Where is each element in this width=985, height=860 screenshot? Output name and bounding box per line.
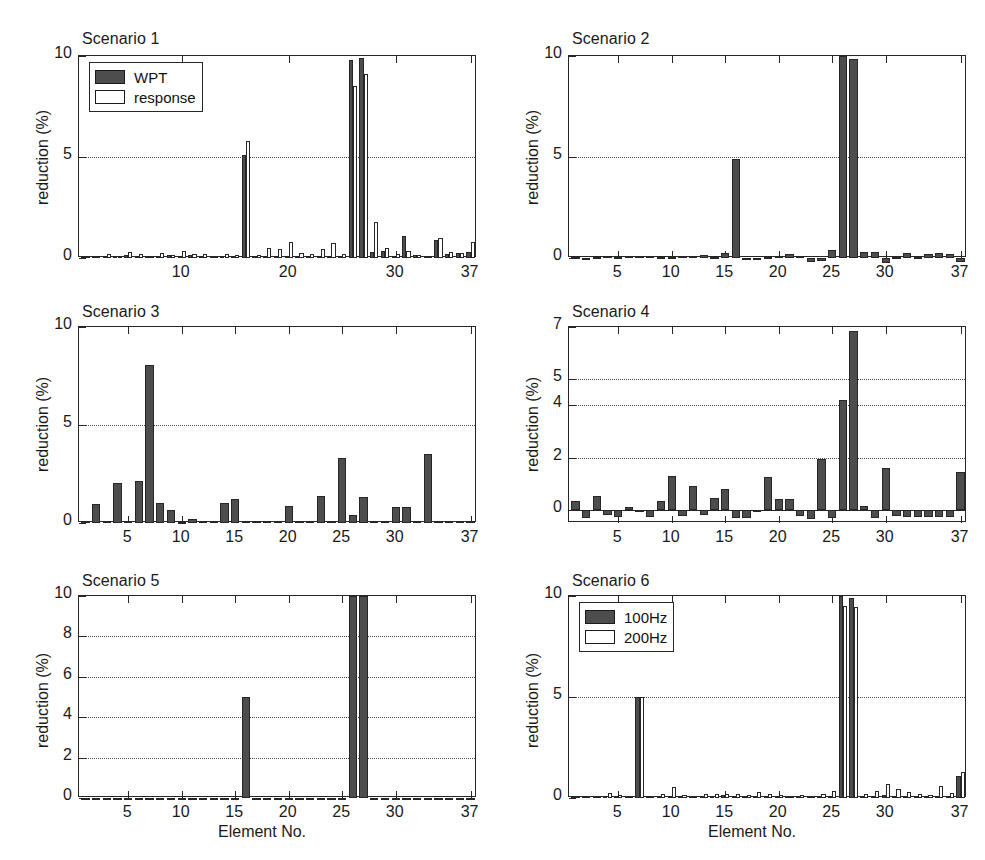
bar (924, 510, 932, 517)
chart-legend: 100Hz200Hz (579, 602, 674, 652)
bar (460, 253, 464, 258)
bar (785, 254, 793, 258)
bar (306, 521, 314, 523)
bar (882, 468, 890, 510)
bar (871, 252, 879, 258)
bar (252, 521, 260, 523)
x-tick-label: 10 (646, 803, 696, 821)
bar (396, 254, 400, 258)
bar (704, 794, 708, 798)
bar (571, 501, 579, 510)
bar (672, 787, 676, 798)
y-tick-label: 7 (522, 315, 562, 333)
bar (471, 242, 475, 258)
bar (310, 254, 314, 258)
legend-row: 100Hz (585, 607, 667, 627)
bar (246, 141, 250, 258)
bar (85, 256, 89, 258)
bar (417, 255, 421, 258)
bar (434, 521, 442, 523)
x-tick-label: 37 (935, 263, 985, 281)
bar (96, 256, 100, 258)
plot-area (568, 55, 966, 257)
bar (327, 521, 335, 523)
bar (629, 796, 633, 798)
x-tick-label: 10 (646, 528, 696, 546)
bar (625, 256, 633, 258)
bar (349, 515, 357, 523)
bar (785, 499, 793, 509)
figure-canvas: Scenario 1reduction (%)WPTresponse051010… (0, 0, 985, 860)
x-tick-label: 37 (445, 803, 495, 821)
bar (434, 798, 442, 800)
x-tick-label: 30 (370, 263, 420, 281)
bar (828, 510, 836, 518)
bar (235, 255, 239, 258)
bar (860, 506, 868, 510)
bar (252, 798, 260, 800)
bar (225, 254, 229, 258)
x-tick-label: 10 (156, 803, 206, 821)
bar (118, 256, 122, 258)
bar (956, 472, 964, 510)
bar (614, 510, 622, 517)
bar (775, 499, 783, 509)
bar (593, 496, 601, 510)
x-tick-label: 37 (935, 803, 985, 821)
bar (678, 510, 686, 517)
bar (693, 796, 697, 798)
bar (231, 499, 239, 524)
bar (338, 798, 346, 800)
bar (156, 798, 164, 800)
bar (753, 258, 761, 260)
bar (892, 510, 900, 517)
bar (914, 257, 922, 259)
bar (445, 521, 453, 523)
bar (107, 254, 111, 258)
bar (661, 794, 665, 798)
plot-area (78, 595, 476, 797)
x-tick-label: 30 (860, 528, 910, 546)
bar (725, 794, 729, 798)
y-tick-label: 0 (32, 511, 72, 529)
bar (278, 249, 282, 258)
x-tick-label: 25 (806, 803, 856, 821)
bar (145, 365, 153, 523)
bar (700, 255, 708, 258)
x-tick-label: 25 (316, 803, 366, 821)
bar (413, 521, 421, 523)
bar (768, 794, 772, 798)
y-tick-label: 0 (32, 246, 72, 264)
x-tick-label: 20 (753, 528, 803, 546)
bar (124, 798, 132, 800)
bar (359, 596, 367, 798)
bar (950, 793, 954, 798)
bar (188, 798, 196, 800)
bar (381, 798, 389, 800)
bar (742, 510, 750, 518)
bar (582, 510, 590, 518)
bar (736, 794, 740, 798)
bar (608, 793, 612, 798)
bar (796, 510, 804, 517)
legend-row: response (95, 87, 196, 107)
x-tick-label: 37 (935, 528, 985, 546)
x-tick-label: 5 (102, 803, 152, 821)
y-tick-label: 5 (32, 413, 72, 431)
y-tick-label: 0 (522, 246, 562, 264)
bar (689, 486, 697, 510)
legend-swatch-light (95, 90, 125, 104)
bar (124, 521, 132, 523)
bar (199, 798, 207, 800)
bar (924, 254, 932, 258)
bar (274, 521, 282, 523)
bar (349, 596, 357, 798)
bar (753, 510, 761, 512)
bar (640, 697, 644, 798)
bar (364, 74, 368, 258)
bar (700, 510, 708, 515)
x-tick-label: 5 (592, 528, 642, 546)
bar (614, 257, 622, 259)
chart-legend: WPTresponse (89, 62, 203, 112)
bar (668, 257, 676, 259)
